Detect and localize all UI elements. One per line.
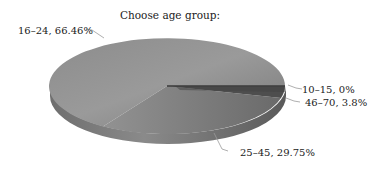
label-46-70: 46–70, 3.8% — [305, 97, 367, 108]
label-25-45: 25–45, 29.75% — [240, 147, 315, 158]
label-16-24: 16–24, 66.46% — [18, 25, 93, 36]
label-10-15: 10–15, 0% — [302, 84, 355, 95]
